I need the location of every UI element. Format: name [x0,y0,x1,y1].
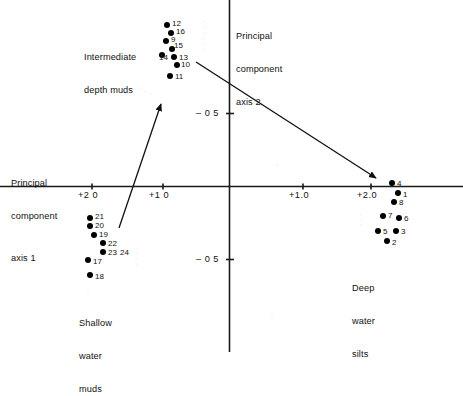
label-intermediate-depth-muds: Intermediate depth muds [84,30,136,118]
axis1-title-line3: axis 1 [11,253,57,264]
axis1-title: Principal component axis 1 [11,156,57,286]
data-point-label-15: 15 [174,42,183,50]
data-point-label-1: 1 [403,191,407,199]
data-point-label-4: 4 [397,180,401,188]
label-shallow-line1: Shallow [79,318,112,329]
data-point-label-21: 21 [95,213,104,221]
data-point-label-19: 19 [99,231,108,239]
label-deep-water-silts: Deep water silts [352,261,375,382]
label-shallow-water-muds: Shallow water muds [79,296,112,396]
label-deep-line3: silts [352,349,375,360]
data-point-label-8: 8 [399,199,403,207]
data-point-label-11: 11 [175,73,183,81]
data-point-label-6: 6 [404,215,408,223]
data-point-label-17: 17 [93,258,102,266]
axis2-title-line1: Principal [236,31,282,42]
data-point-label-14: 14 [159,54,168,62]
data-point-label-16: 16 [176,28,185,36]
x-tick-label-minus1: +1 0 [149,190,169,201]
x-tick-label-minus2: +2 0 [78,190,98,201]
axis2-title-line3: axis 2 [236,97,282,108]
arrow-to-deep-silts [196,62,376,178]
label-deep-line1: Deep [352,283,375,294]
label-intermediate-line1: Intermediate [84,52,136,63]
x-tick-label-plus2: +2.0 [357,190,377,201]
data-point-label-18: 18 [95,273,104,281]
label-shallow-line3: muds [79,384,112,395]
data-point-label-2: 2 [392,239,396,247]
data-point-label-5: 5 [383,228,387,236]
data-point-label-22: 22 [108,240,117,248]
axis2-title-line2: component [236,64,282,75]
x-tick-label-plus1: +1.0 [289,190,309,201]
label-deep-line2: water [352,316,375,327]
data-point-label-3: 3 [401,228,405,236]
data-point-label-23: 23 [108,249,117,257]
axis2-title: Principal component axis 2 [236,9,282,130]
data-point-label-20: 20 [95,222,104,230]
y-tick-label-upper: – 0 5 [196,108,219,119]
data-point-label-10: 10 [181,61,190,69]
axis1-title-line1: Principal [11,178,57,189]
arrow-to-intermediate-muds [119,104,161,228]
axis1-title-line2: component [11,211,57,222]
y-tick-label-lower: – 0 5 [196,254,219,265]
label-shallow-line2: water [79,351,112,362]
data-point-label-7: 7 [388,212,392,220]
data-point-label-24: 24 [120,249,129,257]
label-intermediate-line2: depth muds [84,85,136,96]
